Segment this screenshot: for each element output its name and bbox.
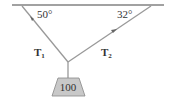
tension-diagram: 50° 32° T1 T2 100 [0, 0, 171, 104]
tension-2-label: T2 [101, 46, 112, 60]
tension-1-label: T1 [34, 46, 45, 60]
angle-left-label: 50° [37, 8, 52, 20]
angle-right-label: 32° [117, 8, 132, 20]
weight-label: 100 [60, 81, 77, 93]
